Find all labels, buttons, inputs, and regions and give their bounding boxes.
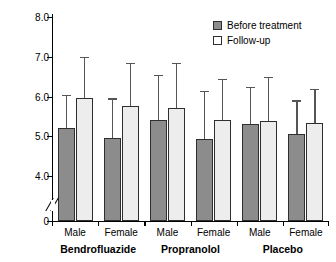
error-bar-cap [264,77,273,78]
x-axis-category-label: Male [144,227,190,238]
bar-follow-up [214,120,231,221]
legend: Before treatmentFollow-up [213,20,301,50]
legend-swatch-icon [213,21,222,30]
bar-follow-up [122,106,139,221]
x-axis-tick-mark [328,221,329,226]
error-bar-line [66,95,67,129]
error-bar-cap [126,63,135,64]
bar-before-treatment [288,134,305,221]
x-axis-tick-mark [98,221,99,226]
error-bar-cap [80,57,89,58]
error-bar-line [130,63,131,106]
bar-before-treatment [150,120,167,221]
error-bar-cap [218,79,227,80]
error-bar-cap [154,75,163,76]
error-bar-line [112,98,113,138]
bar-before-treatment [196,139,213,221]
axis-break-mask [51,200,55,211]
x-axis-tick-mark [144,221,145,226]
bar-before-treatment [242,124,259,221]
error-bar-line [158,75,159,121]
y-axis-title: Serum urea (mol/L) [0,0,18,262]
error-bar-cap [108,98,117,99]
bar-follow-up [260,121,277,221]
y-axis-tick-label: 0 [43,216,49,227]
x-axis-tick-mark [283,221,284,226]
x-axis-tick-mark [237,221,238,226]
error-bar-cap [62,95,71,96]
chart-figure: Serum urea (mol/L) 04.05.06.07.08.0 Male… [0,0,336,262]
x-axis-category-label: Female [191,227,237,238]
bar-before-treatment [58,128,75,221]
x-axis-tick-mark [191,221,192,226]
x-axis-group-label: Placebo [237,243,329,255]
y-axis-tick-label: 6.0 [35,91,49,102]
x-axis-category-label: Female [98,227,144,238]
error-bar-line [314,89,315,124]
x-axis-tick-mark [52,221,53,226]
error-bar-line [84,57,85,99]
error-bar-cap [246,87,255,88]
y-axis-tick-label: 7.0 [35,51,49,62]
error-bar-line [250,87,251,125]
error-bar-cap [292,100,301,101]
error-bar-cap [310,89,319,90]
legend-item: Before treatment [213,20,301,31]
error-bar-line [204,91,205,140]
legend-item-label: Before treatment [227,20,301,31]
bar-follow-up [306,123,323,221]
error-bar-line [268,77,269,122]
bar-follow-up [168,108,185,221]
error-bar-cap [172,63,181,64]
legend-item: Follow-up [213,35,301,46]
error-bar-cap [200,91,209,92]
bar-follow-up [76,98,93,221]
error-bar-line [222,79,223,121]
y-axis-tick-label: 8.0 [35,12,49,23]
y-axis-line [52,14,53,222]
x-axis-group-label: Bendrofluazide [52,243,144,255]
y-axis-tick-label: 5.0 [35,131,49,142]
error-bar-line [176,63,177,108]
legend-swatch-icon [213,36,222,45]
error-bar-line [296,100,297,134]
bar-before-treatment [104,138,121,221]
x-axis-category-label: Female [283,227,329,238]
x-axis-group-label: Propranolol [144,243,236,255]
legend-item-label: Follow-up [227,35,270,46]
x-axis-category-label: Male [52,227,98,238]
x-axis-category-label: Male [237,227,283,238]
y-axis-tick-label: 4.0 [35,171,49,182]
